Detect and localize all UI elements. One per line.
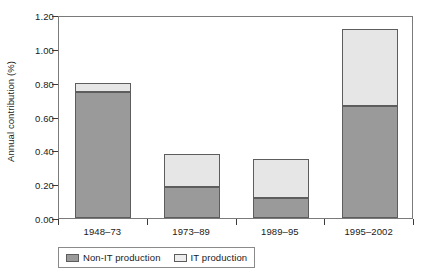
bar-segment-non-it-production [75,92,131,218]
x-axis-category-label: 1995–2002 [324,226,413,237]
bar-group [253,159,309,218]
y-axis-tick-labels: 0.000.200.400.600.801.001.20 [22,0,54,280]
y-axis-title: Annual contribution (%) [0,0,22,222]
x-axis-tick-mark [413,219,414,225]
y-axis-tick-label: 0.20 [24,180,54,191]
bars-container [59,17,412,218]
chart-legend: Non-IT productionIT production [58,247,255,268]
stacked-bar-chart: Annual contribution (%) 0.000.200.400.60… [0,0,427,280]
bar-segment-it-production [342,29,398,106]
x-axis-category-label: 1948–73 [58,226,147,237]
bar-segment-it-production [253,159,309,198]
y-axis-title-text: Annual contribution (%) [6,60,17,161]
x-axis-tick-mark [147,219,148,225]
legend-label: Non-IT production [83,252,161,263]
x-axis-category-label: 1973–89 [147,226,236,237]
bar-group [164,154,220,218]
y-axis-tick-label: 1.20 [24,11,54,22]
x-axis-tick-mark [58,219,59,225]
x-axis-tick-mark [324,219,325,225]
bar-group [75,83,131,218]
y-axis-tick-label: 0.40 [24,146,54,157]
bar-segment-non-it-production [342,106,398,218]
legend-swatch-icon [66,254,79,262]
bar-segment-it-production [75,83,131,92]
legend-label: IT production [191,252,248,263]
bar-segment-non-it-production [253,198,309,218]
bar-segment-non-it-production [164,187,220,218]
y-axis-tick-label: 0.00 [24,214,54,225]
legend-swatch-icon [174,254,187,262]
y-axis-tick-label: 1.00 [24,44,54,55]
bar-group [342,29,398,218]
x-axis-tick-mark [236,219,237,225]
plot-area [58,16,413,219]
y-axis-tick-label: 0.80 [24,78,54,89]
y-axis-tick-label: 0.60 [24,112,54,123]
legend-entry: Non-IT production [66,252,161,263]
bar-segment-it-production [164,154,220,187]
legend-entry: IT production [174,252,248,263]
x-axis-category-label: 1989–95 [236,226,325,237]
